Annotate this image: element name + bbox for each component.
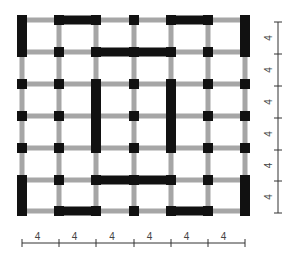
column	[166, 47, 176, 57]
column	[166, 206, 176, 216]
column	[240, 79, 250, 89]
column	[166, 79, 176, 89]
column	[129, 111, 139, 121]
column	[240, 15, 250, 25]
column	[203, 143, 213, 153]
dimension-label: 4	[109, 231, 115, 242]
column	[17, 79, 27, 89]
column	[17, 15, 27, 25]
column	[17, 143, 27, 153]
dimension-label: 4	[263, 131, 274, 137]
dimension-label: 4	[184, 231, 190, 242]
column	[203, 47, 213, 57]
column	[129, 79, 139, 89]
column	[17, 175, 27, 185]
column	[54, 206, 64, 216]
dimension-label: 4	[147, 231, 153, 242]
column	[54, 143, 64, 153]
dimension-label: 4	[263, 67, 274, 73]
column	[54, 47, 64, 57]
column	[166, 175, 176, 185]
structural-grid-diagram: 444444 444444	[0, 0, 307, 265]
column	[240, 47, 250, 57]
column	[166, 111, 176, 121]
column	[17, 206, 27, 216]
column	[54, 15, 64, 25]
dimension-label: 4	[263, 35, 274, 41]
column	[129, 15, 139, 25]
column	[91, 206, 101, 216]
dimension-label: 4	[35, 231, 41, 242]
column	[54, 111, 64, 121]
column	[91, 111, 101, 121]
column	[240, 111, 250, 121]
column	[203, 111, 213, 121]
column	[203, 79, 213, 89]
column	[91, 175, 101, 185]
column	[54, 175, 64, 185]
column	[166, 15, 176, 25]
column	[17, 47, 27, 57]
bottom-dimension-axis: 444444	[22, 231, 245, 247]
column	[17, 111, 27, 121]
column	[240, 175, 250, 185]
dimension-label: 4	[263, 99, 274, 105]
dimension-label: 4	[72, 231, 78, 242]
column	[91, 143, 101, 153]
column	[129, 143, 139, 153]
column	[129, 175, 139, 185]
column	[203, 206, 213, 216]
dimension-label: 4	[263, 194, 274, 200]
column	[54, 79, 64, 89]
column	[91, 47, 101, 57]
column	[240, 143, 250, 153]
dimension-label: 4	[263, 162, 274, 168]
column	[203, 175, 213, 185]
column	[91, 15, 101, 25]
right-dimension-axis: 444444	[263, 22, 282, 213]
column	[129, 206, 139, 216]
column	[91, 79, 101, 89]
column	[203, 15, 213, 25]
column	[129, 47, 139, 57]
column	[166, 143, 176, 153]
dimension-label: 4	[221, 231, 227, 242]
column	[240, 206, 250, 216]
